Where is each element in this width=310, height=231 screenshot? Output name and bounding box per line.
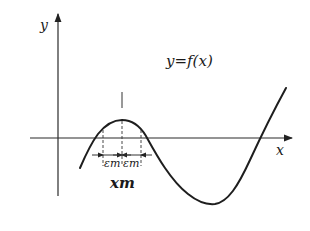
epsilon-right-label: εm [123,157,139,170]
xm-label: xm [109,174,135,192]
function-maximum-diagram: y x y=f(x) εm εm xm [0,0,310,231]
x-axis-label: x [276,142,284,158]
y-axis-label: y [39,17,49,33]
epsilon-left-label: εm [104,157,120,170]
function-label: y=f(x) [165,52,213,70]
